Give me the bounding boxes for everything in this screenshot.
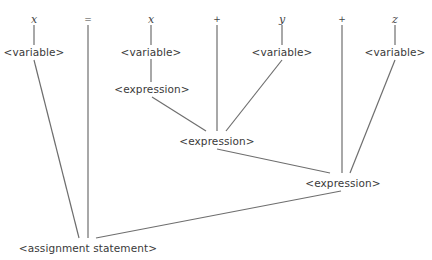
terminal-x-rhs: x [148, 13, 154, 26]
edge-v3-to-e2 [226, 60, 282, 131]
terminal-y: y [279, 13, 285, 26]
edge-e2-to-e3 [217, 149, 330, 173]
terminal-plus-1: + [213, 14, 221, 24]
node-assignment-statement-root: <assignment statement> [19, 242, 157, 254]
edge-e3-to-root [96, 191, 341, 238]
node-variable-y: <variable> [252, 46, 313, 58]
edge-e1-to-e2 [152, 97, 206, 131]
terminal-equals: = [84, 14, 92, 24]
node-variable-x-rhs: <variable> [121, 46, 182, 58]
terminal-plus-2: + [338, 14, 346, 24]
terminal-x-lhs: x [31, 13, 37, 26]
parse-tree-edges [0, 0, 432, 260]
node-expression-x-plus-y: <expression> [179, 135, 254, 147]
edge-v4-to-e3 [350, 60, 395, 173]
edge-v1-to-root [34, 60, 79, 238]
node-expression-x: <expression> [114, 83, 189, 95]
node-variable-x-lhs: <variable> [4, 46, 65, 58]
terminal-z: z [392, 13, 398, 26]
node-variable-z: <variable> [365, 46, 426, 58]
node-expression-x-plus-y-plus-z: <expression> [305, 177, 380, 189]
